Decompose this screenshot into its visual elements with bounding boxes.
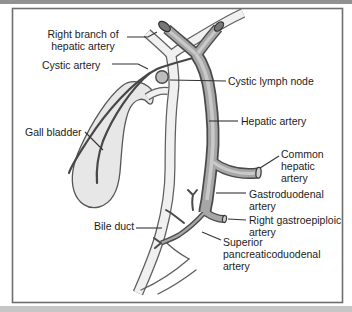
- bottom-strip: [0, 306, 352, 312]
- leader-right-gastroepiploic: [228, 219, 246, 220]
- label-cystic-lymph-node: Cystic lymph node: [228, 75, 314, 87]
- label-right-gastroepiploic-artery: Right gastroepiploic artery: [249, 214, 341, 238]
- label-gastroduodenal-artery: Gastroduodenal artery: [249, 188, 324, 212]
- common-hepatic-cut-end: [255, 167, 261, 178]
- leader-superior-pancreaticoduodenal: [202, 232, 221, 240]
- anatomy-diagram: Right branch of hepatic artery Cystic ar…: [0, 0, 352, 312]
- label-common-hepatic-artery: Common hepatic artery: [281, 148, 324, 184]
- label-hepatic-artery: Hepatic artery: [241, 115, 306, 127]
- cystic-lymph-node-shape: [156, 71, 168, 83]
- pancreatic-twig: [188, 190, 197, 210]
- label-right-branch-of-hepatic-artery: Right branch of hepatic artery: [33, 28, 133, 52]
- hepatic-artery-trunk-inner: [196, 54, 213, 212]
- leader-common-hepatic: [260, 156, 279, 168]
- leader-cystic-artery: [112, 64, 148, 69]
- label-bile-duct: Bile duct: [94, 220, 134, 232]
- top-strip: [0, 0, 352, 4]
- label-cystic-artery: Cystic artery: [42, 59, 100, 71]
- label-gall-bladder: Gall bladder: [25, 126, 82, 138]
- duct-flare-line: [158, 270, 196, 294]
- label-superior-pancreaticoduodenal-artery: Superior pancreaticoduodenal artery: [223, 236, 321, 272]
